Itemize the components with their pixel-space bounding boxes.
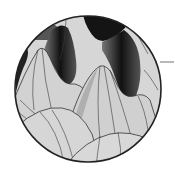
magnified-surface-inset — [0, 0, 175, 181]
hill-front-left — [0, 108, 97, 181]
surface-landscape — [0, 0, 175, 181]
